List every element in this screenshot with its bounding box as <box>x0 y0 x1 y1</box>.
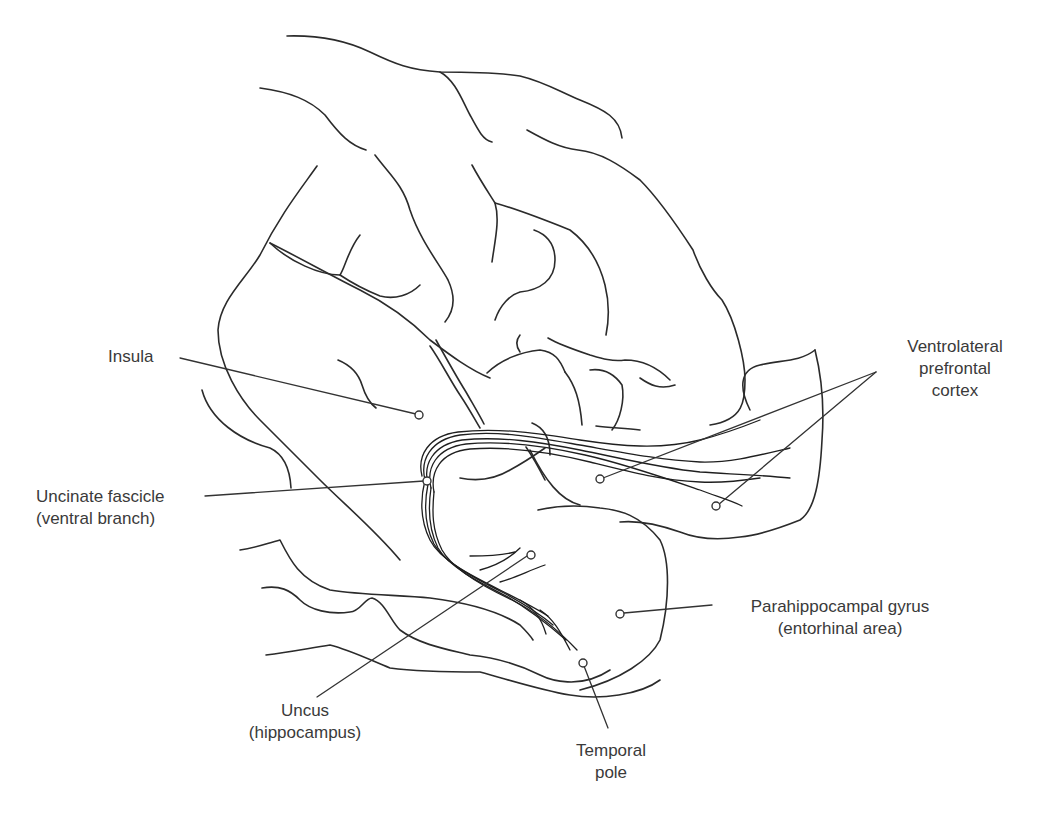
uncus-marker <box>527 551 535 559</box>
label-temporal-pole: Temporal pole <box>566 740 656 784</box>
label-parahippocampal-line2: (entorhinal area) <box>730 618 950 640</box>
temporal-pole-marker <box>579 659 587 667</box>
label-uncus-line1: Uncus <box>240 700 370 722</box>
label-uncus: Uncus (hippocampus) <box>240 700 370 744</box>
label-vlpfc-line1: Ventrolateral <box>895 336 1015 358</box>
leader-lines <box>180 358 876 728</box>
label-insula: Insula <box>108 346 153 368</box>
label-vlpfc-line3: cortex <box>895 380 1015 402</box>
label-markers <box>415 411 720 667</box>
label-ventrolateral-prefrontal-cortex: Ventrolateral prefrontal cortex <box>895 336 1015 402</box>
label-temporal-pole-line2: pole <box>566 762 656 784</box>
label-uncinate-line1: Uncinate fascicle <box>36 486 165 508</box>
parahippocampal-marker <box>616 610 624 618</box>
label-uncus-line2: (hippocampus) <box>240 722 370 744</box>
brain-diagram <box>0 0 1044 813</box>
label-parahippocampal-line1: Parahippocampal gyrus <box>730 596 950 618</box>
label-vlpfc-line2: prefrontal <box>895 358 1015 380</box>
label-uncinate-fascicle: Uncinate fascicle (ventral branch) <box>36 486 165 530</box>
insula-marker <box>415 411 423 419</box>
vlpfc-marker-2 <box>712 502 720 510</box>
uncinate-marker <box>423 477 431 485</box>
vlpfc-marker-1 <box>596 475 604 483</box>
label-uncinate-line2: (ventral branch) <box>36 508 165 530</box>
label-parahippocampal-gyrus: Parahippocampal gyrus (entorhinal area) <box>730 596 950 640</box>
label-temporal-pole-line1: Temporal <box>566 740 656 762</box>
label-insula-text: Insula <box>108 346 153 368</box>
